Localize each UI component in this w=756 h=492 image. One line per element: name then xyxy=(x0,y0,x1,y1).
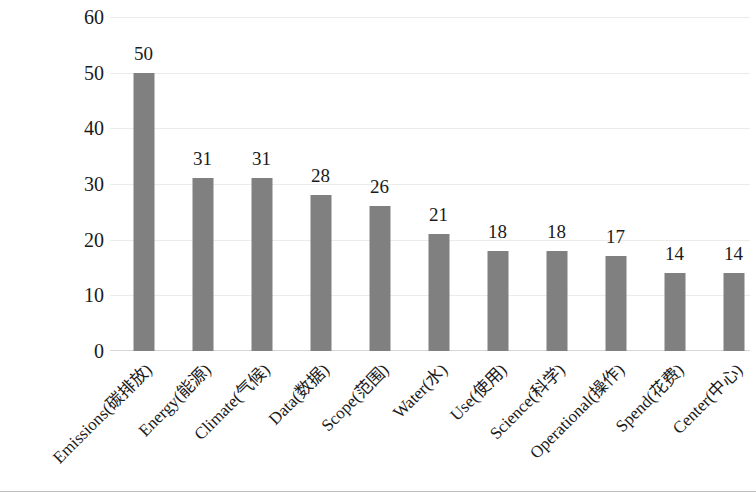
bar xyxy=(192,178,213,351)
bar xyxy=(723,273,744,351)
y-tick-label: 20 xyxy=(58,230,104,250)
x-axis: Emissions(碳排放) Energy(能源) Climate(气候) Da… xyxy=(110,355,750,492)
bar-value-label: 14 xyxy=(665,244,684,263)
x-label-slot: Scope(范围) xyxy=(350,355,409,492)
bar-value-label: 31 xyxy=(252,149,271,168)
y-tick-label: 60 xyxy=(58,7,104,27)
bar-chart: 60 50 40 30 20 10 0 50 31 31 28 xyxy=(0,0,756,492)
bar xyxy=(605,256,626,351)
y-tick-label: 50 xyxy=(58,63,104,83)
bar-value-label: 50 xyxy=(134,44,153,63)
bar xyxy=(428,234,449,351)
plot-area: 50 31 31 28 26 21 18 18 xyxy=(110,17,750,351)
y-tick-label: 10 xyxy=(58,285,104,305)
y-tick-label: 0 xyxy=(58,341,104,361)
gridline-40 xyxy=(110,128,750,129)
bar xyxy=(310,195,331,351)
bar xyxy=(487,251,508,351)
bar xyxy=(369,206,390,351)
gridline-50 xyxy=(110,73,750,74)
bar xyxy=(664,273,685,351)
bar-value-label: 28 xyxy=(311,166,330,185)
y-tick-label: 40 xyxy=(58,118,104,138)
bar-value-label: 17 xyxy=(606,227,625,246)
bar-value-label: 18 xyxy=(488,222,507,241)
bar-value-label: 21 xyxy=(429,205,448,224)
bar-value-label: 14 xyxy=(724,244,743,263)
y-tick-label: 30 xyxy=(58,174,104,194)
gridline-60 xyxy=(110,17,750,18)
bar-value-label: 18 xyxy=(547,222,566,241)
bar xyxy=(546,251,567,351)
bar xyxy=(251,178,272,351)
bar-value-label: 31 xyxy=(193,149,212,168)
bar-value-label: 26 xyxy=(370,177,389,196)
bar xyxy=(133,73,154,351)
x-label-slot: Center(中心) xyxy=(704,355,756,492)
